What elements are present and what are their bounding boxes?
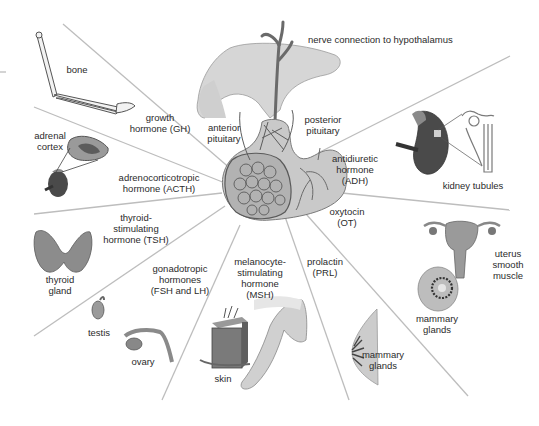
target-label-adrenal-cortex: adrenal cortex: [28, 130, 72, 152]
target-label-mammary-glands-prl: mammary glands: [360, 349, 406, 371]
kidney-illustration: [396, 111, 494, 175]
hormone-label-adh: antidiuretic hormone (ADH): [324, 153, 386, 186]
target-label-thyroid-gland: thyroid gland: [40, 274, 80, 296]
hormone-label-acth: adrenocorticotropic hormone (ACTH): [104, 172, 214, 194]
hormone-label-msh: melanocyte- stimulating hormone (MSH): [225, 256, 295, 300]
testis-illustration: [92, 297, 104, 319]
hormone-label-fsh-lh: gonadotropic hormones (FSH and LH): [140, 263, 220, 296]
breast-illustration: [352, 309, 378, 385]
divider-line: [318, 56, 510, 153]
target-label-mammary-glands-ot: mammary glands: [414, 313, 460, 335]
hormone-label-gh: growth hormone (GH): [120, 112, 200, 134]
divider-line: [34, 193, 222, 214]
pituitary-hormone-diagram: nerve connection to hypothalamus anterio…: [0, 0, 539, 426]
thyroid-illustration: [34, 231, 92, 273]
skin-illustration: [200, 306, 250, 368]
target-label-uterus: uterus smooth muscle: [488, 248, 528, 281]
arm-illustration: [241, 296, 307, 389]
hormone-label-tsh: thyroid- stimulating hormone (TSH): [96, 212, 176, 245]
anterior-pituitary-label: anterior pituitary: [199, 122, 249, 144]
target-label-ovary: ovary: [128, 356, 158, 367]
target-label-testis: testis: [84, 327, 114, 338]
nerve-connection-label: nerve connection to hypothalamus: [308, 34, 453, 45]
hormone-label-ot: oxytocin (OT): [322, 206, 372, 228]
target-label-skin: skin: [212, 373, 234, 384]
posterior-pituitary-label: posterior pituitary: [298, 114, 348, 136]
mammary-gland-round-illustration: [418, 267, 458, 311]
target-label-kidney-tubules: kidney tubules: [428, 180, 518, 191]
hypothalamus-illustration: [197, 43, 340, 118]
target-label-bone: bone: [62, 64, 92, 75]
hormone-label-prl: prolactin (PRL): [300, 256, 350, 278]
